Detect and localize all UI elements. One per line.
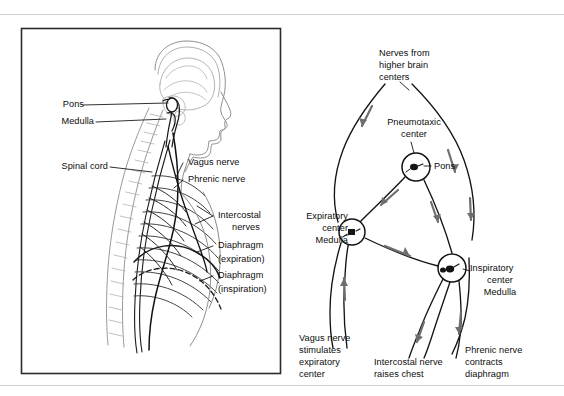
label-diaphragm-inspiration-line1: Diaphragm [218,270,263,282]
label-inspiratory-line3: Medulla [470,287,530,299]
label-inspiratory-line1: Inspiratory [470,263,513,275]
label-phrenic-contracts-line1: Phrenic nerve [465,345,522,357]
label-expiratory-line2: center [288,223,348,235]
label-diaphragm-expiration-line2: (expiration) [218,254,265,266]
label-phrenic-contracts-line2: contracts [465,357,503,369]
diagram-artwork [0,0,564,396]
label-vagus-stimulates-line3: expiratory [299,357,340,369]
figure-root: Pons Medulla Spinal cord Vagus nerve Phr… [0,0,564,396]
label-pneumotaxic-line1: Pneumotaxic [379,117,449,129]
label-phrenic-nerve-left: Phrenic nerve [188,174,245,186]
label-medulla-left: Medulla [28,116,94,128]
label-expiratory-line3: Medulla [288,235,348,247]
label-inspiratory-line2: center [470,275,530,287]
label-spinal-cord: Spinal cord [34,161,108,173]
label-pneumotaxic-line2: center [379,129,449,141]
label-vagus-stimulates-line2: stimulates [299,345,341,357]
label-expiratory-line1: Expiratory [288,211,348,223]
label-vagus-stimulates-line1: Vagus nerve [299,333,350,345]
label-higher-brain-line2: higher brain [379,60,428,72]
label-intercostal-raises-line1: Intercostal nerve [374,357,443,369]
label-intercostal-nerves-line1: Intercostal [218,210,261,222]
label-vagus-nerve-left: Vagus nerve [188,157,239,169]
pons-structure [167,98,178,112]
higher-brain-left-pathway [335,84,385,222]
label-diaphragm-inspiration-line2: (inspiration) [218,284,267,296]
label-vagus-stimulates-line4: center [299,369,325,381]
label-intercostal-raises-line2: raises chest [374,369,424,381]
label-pons-left: Pons [34,99,84,111]
arrowhead-vagus-up [340,278,348,286]
label-pons-right: Pons [434,161,455,173]
label-higher-brain-line1: Nerves from [379,48,430,60]
inspiratory-intercostal-pathway-2 [424,282,450,358]
label-intercostal-nerves-line2: nerves [218,222,274,234]
label-phrenic-contracts-line3: diaphragm [465,369,509,381]
label-higher-brain-line3: centers [379,72,409,84]
label-diaphragm-expiration-line1: Diaphragm [218,240,263,252]
leader-pneumotaxic [411,142,414,153]
